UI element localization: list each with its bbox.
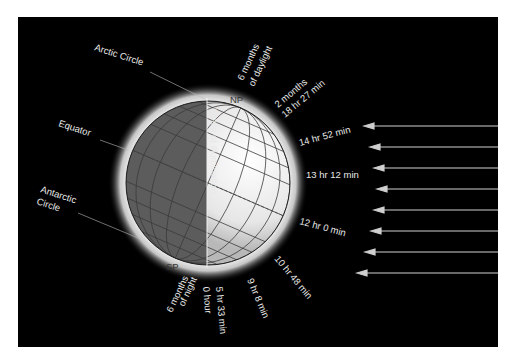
daylight-antarctic-1: 5 hr 33 min	[214, 286, 229, 334]
arctic-circle-label: Arctic Circle	[93, 41, 145, 67]
earth-illumination-diagram: Circle of Illumination NP SP Arctic Circ…	[0, 0, 515, 363]
daylight-equator: 12 hr 0 min	[298, 215, 347, 238]
circle-of-illumination-label: Circle of Illumination	[209, 108, 220, 194]
daylight-lat-c: 10 hr 48 min	[272, 253, 314, 301]
south-pole-label: SP	[166, 261, 179, 272]
daylight-antarctic-2: 0 hour	[201, 286, 214, 314]
daylight-lat-d: 9 hr 8 min	[245, 276, 272, 319]
sun-rays	[357, 123, 498, 276]
daylight-lat-b: 13 hr 12 min	[306, 169, 359, 180]
daylight-lat-a: 14 hr 52 min	[298, 124, 352, 148]
equator-label: Equator	[57, 117, 92, 138]
north-pole-label: NP	[230, 94, 243, 105]
